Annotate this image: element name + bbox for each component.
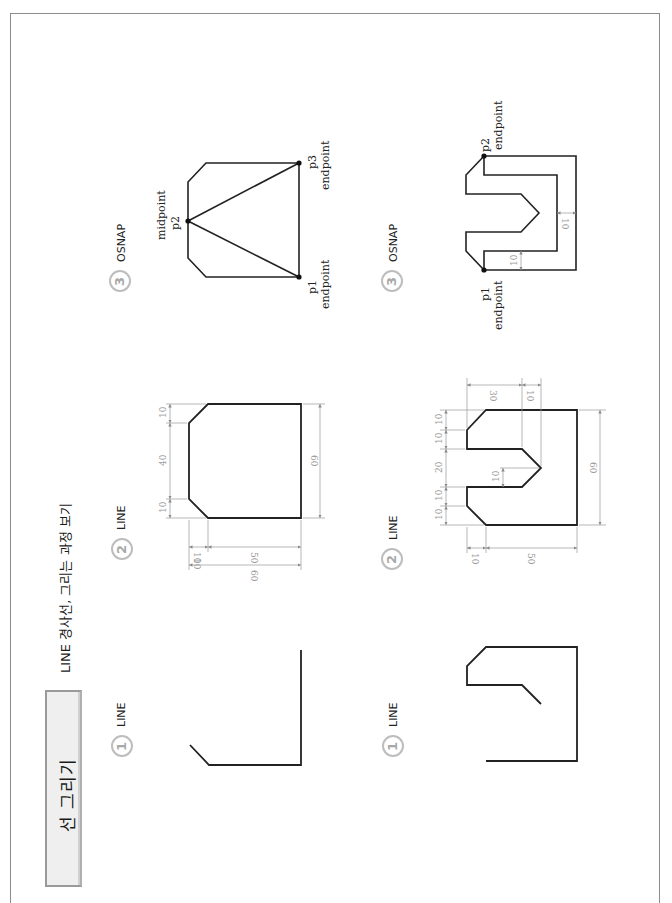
p2-point bbox=[185, 218, 190, 223]
svg-text:50: 50 bbox=[249, 552, 259, 564]
svg-text:10: 10 bbox=[470, 553, 480, 565]
svg-text:10: 10 bbox=[525, 390, 535, 402]
svg-text:10: 10 bbox=[434, 432, 444, 444]
svg-text:10: 10 bbox=[434, 489, 444, 501]
p1-point bbox=[296, 274, 301, 279]
p3-point bbox=[296, 160, 301, 165]
svg-text:10: 10 bbox=[434, 508, 444, 520]
svg-text:10: 10 bbox=[491, 470, 501, 482]
row2-step2-drawing: 30 10 10 10 20 10 10 10 60 10 50 bbox=[434, 378, 606, 565]
svg-text:10: 10 bbox=[158, 501, 168, 513]
svg-text:10: 10 bbox=[158, 406, 168, 418]
svg-text:10: 10 bbox=[434, 413, 444, 425]
row1-snap-points bbox=[185, 160, 301, 279]
svg-text:30: 30 bbox=[488, 390, 498, 402]
row2-p2-point bbox=[481, 153, 486, 158]
svg-text:10: 10 bbox=[560, 218, 570, 230]
row2-p1-point bbox=[481, 267, 486, 272]
svg-text:40: 40 bbox=[158, 454, 168, 466]
svg-text:60: 60 bbox=[249, 570, 259, 582]
svg-text:50: 50 bbox=[526, 553, 536, 565]
svg-text:60: 60 bbox=[588, 462, 598, 474]
svg-text:20: 20 bbox=[434, 461, 444, 473]
svg-text:10: 10 bbox=[192, 558, 202, 570]
row2-step1-drawing bbox=[467, 647, 577, 761]
svg-text:10: 10 bbox=[509, 254, 519, 266]
row1-step1-drawing bbox=[190, 650, 301, 765]
svg-text:60: 60 bbox=[309, 455, 319, 467]
row1-step3-drawing bbox=[188, 163, 299, 277]
row1-step2-drawing: 10 40 10 60 10 10 50 60 bbox=[158, 404, 325, 582]
